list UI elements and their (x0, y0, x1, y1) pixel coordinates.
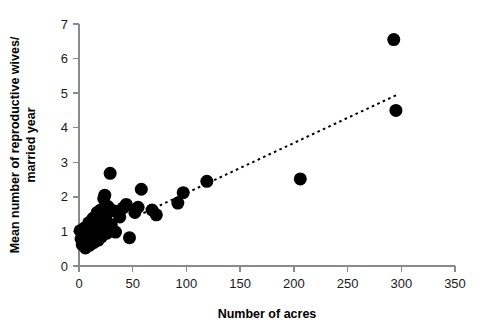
data-point (389, 104, 402, 117)
x-axis-tick-label: 100 (176, 276, 198, 291)
data-point (135, 183, 148, 196)
data-point (177, 186, 190, 199)
x-axis-tick-label: 350 (444, 276, 466, 291)
y-axis-tick-label: 0 (61, 259, 68, 274)
data-point (387, 33, 400, 46)
data-point (200, 175, 213, 188)
y-axis-title: Mean number of reproductive wives/marrie… (8, 36, 38, 253)
data-point (109, 226, 122, 239)
x-axis-tick-label: 200 (283, 276, 305, 291)
x-axis-title: Number of acres (218, 307, 317, 321)
x-axis-tick-label: 0 (75, 276, 82, 291)
y-axis-tick-label: 1 (61, 224, 68, 239)
data-point (150, 208, 163, 221)
data-point (123, 231, 136, 244)
data-point (294, 172, 307, 185)
y-axis-tick-label: 4 (61, 120, 68, 135)
data-point (104, 167, 117, 180)
data-point (98, 189, 111, 202)
y-axis-title-line1: Mean number of reproductive wives/ (8, 36, 22, 253)
y-axis-tick-label: 3 (61, 155, 68, 170)
x-axis-tick-label: 300 (390, 276, 412, 291)
y-axis-tick-label: 2 (61, 189, 68, 204)
y-axis-title-line2: married year (24, 107, 38, 182)
x-axis-tick-label: 250 (337, 276, 359, 291)
y-axis-tick-label: 5 (61, 86, 68, 101)
y-axis-tick-label: 6 (61, 51, 68, 66)
x-axis-tick-label: 150 (229, 276, 251, 291)
scatter-chart-figure: 01234567050100150200250300350Number of a… (0, 0, 493, 334)
x-axis-tick-label: 50 (125, 276, 139, 291)
data-point (132, 201, 145, 214)
plot-area: 01234567050100150200250300350Number of a… (0, 0, 493, 334)
y-axis-tick-label: 7 (61, 17, 68, 32)
